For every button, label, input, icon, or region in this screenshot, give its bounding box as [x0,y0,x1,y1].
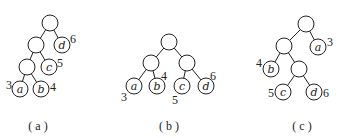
leaf-label: b [153,80,160,93]
leaf-weight: 3 [6,78,12,92]
tree-a: d c a b 6 5 3 4 ( a ) [6,15,76,133]
leaf-weight: 6 [210,69,216,83]
caption-c: ( c ) [292,119,311,133]
leaf-weight: 3 [327,35,333,49]
leaf-weight: 6 [323,86,329,100]
caption-a: ( a ) [28,119,47,133]
internal-node [291,61,307,77]
leaf-label: d [58,39,65,52]
internal-node [179,55,195,71]
leaf-weight: 3 [121,90,127,104]
leaf-label: b [37,83,44,96]
internal-node [298,16,314,32]
leaf-label: a [315,41,322,54]
leaf-weight: 4 [161,69,167,83]
leaf-label: c [179,80,185,93]
binary-trees-figure: d c a b 6 5 3 4 ( a ) a b c d 3 4 5 6 ( … [0,0,345,138]
caption-b: ( b ) [159,119,179,133]
tree-c: a b c d 3 4 5 6 ( c ) [256,16,333,133]
leaf-label: d [202,80,209,93]
leaf-label: c [280,86,286,99]
internal-node [19,59,35,75]
leaf-label: a [17,83,24,96]
internal-node [42,15,58,31]
leaf-weight: 5 [57,56,63,70]
internal-node [28,37,44,53]
leaf-weight: 5 [268,86,274,100]
internal-node [143,55,159,71]
tree-b: a b c d 3 4 5 6 ( b ) [121,34,216,133]
leaf-weight: 4 [50,80,56,94]
internal-node [276,38,292,54]
leaf-weight: 4 [256,56,262,70]
leaf-weight: 5 [172,93,178,107]
leaf-label: b [267,63,274,76]
leaf-weight: 6 [70,32,76,46]
leaf-label: d [310,86,317,99]
internal-node [161,34,177,50]
leaf-label: a [131,80,138,93]
leaf-label: c [46,61,52,74]
